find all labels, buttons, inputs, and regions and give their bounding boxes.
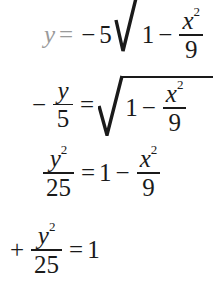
numerator-variable-y: y [50,145,61,172]
fraction-numerator: x2 [179,8,203,34]
numerator-exponent-2: 2 [194,4,201,19]
minus-sign: − [112,160,134,185]
fraction-x2-over-9: x2 9 [163,81,187,135]
square-root-symbol: 1 − x2 9 [114,8,206,62]
leading-minus-sign: − [28,92,50,117]
numerator-variable-x: x [182,7,193,34]
fraction-y-over-5: y 5 [53,78,73,132]
fraction-denominator-25: 25 [31,251,62,277]
equals-sign: = [55,22,77,47]
radicand-group: 1 − x2 9 [125,74,189,135]
equation-line-3: y2 25 = 1 − x2 9 [40,146,163,200]
radicand-minus-sign: − [138,95,160,120]
right-hand-one: 1 [99,160,112,185]
equation-line-2: − y 5 = 1 − x2 9 [28,74,189,135]
coefficient-5: 5 [99,22,112,47]
equals-sign: = [77,160,99,185]
numerator-exponent-2: 2 [61,142,68,157]
radical-stroke-icon [98,74,124,136]
numerator-variable-y: y [38,222,49,249]
radical-stroke-icon [114,0,140,52]
fraction-denominator-25: 25 [43,174,74,200]
fraction-numerator: x2 [163,81,187,107]
fraction-y2-over-25: y2 25 [43,146,74,200]
fraction-denominator-9: 9 [182,36,201,62]
math-derivation-page: y = − 5 1 − x2 9 − [0,0,213,291]
fraction-numerator: y2 [47,146,71,172]
radicand-one: 1 [142,22,155,47]
fraction-denominator-9: 9 [139,174,158,200]
fraction-denominator-5: 5 [54,105,73,131]
right-hand-one: 1 [87,237,100,262]
equation-line-1: y = − 5 1 − x2 9 [44,8,206,62]
numerator-exponent-2: 2 [151,142,158,157]
fraction-y2-over-25: y2 25 [31,223,62,277]
numerator-variable-x: x [140,145,151,172]
numerator-exponent-2: 2 [49,219,56,234]
equals-sign: = [65,237,87,262]
numerator-exponent-2: 2 [177,77,184,92]
radicand-group: 1 − x2 9 [142,8,206,62]
fraction-numerator: y2 [35,223,59,249]
fraction-x2-over-9: x2 9 [179,8,203,62]
equals-sign: = [76,92,98,117]
fraction-x2-over-9: x2 9 [137,146,161,200]
radicand-one: 1 [125,95,138,120]
leading-plus-sign: + [6,237,28,262]
fraction-denominator-9: 9 [165,109,184,135]
square-root-symbol: 1 − x2 9 [98,74,189,135]
minus-sign: − [77,22,99,47]
radicand-minus-sign: − [154,22,176,47]
fraction-numerator-y: y [55,78,72,104]
lhs-variable-y: y [44,22,55,47]
numerator-variable-x: x [166,80,177,107]
equation-line-4: + y2 25 = 1 [6,223,100,277]
fraction-numerator: x2 [137,146,161,172]
